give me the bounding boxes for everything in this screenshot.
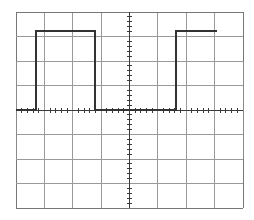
oscilloscope-display	[0, 0, 254, 220]
scope-canvas	[0, 0, 254, 220]
